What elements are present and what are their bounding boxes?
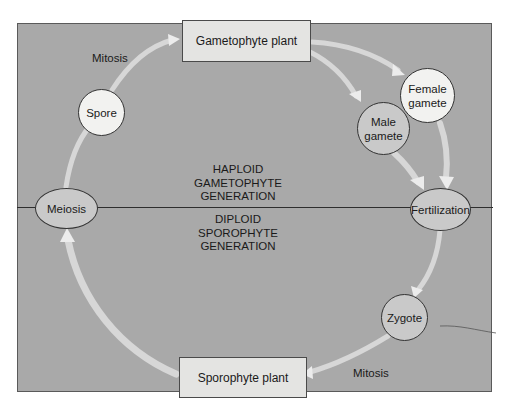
mitosis-top-label: Mitosis <box>92 52 128 64</box>
diploid-line1: DIPLOID <box>168 213 308 227</box>
diploid-line2: SPOROPHYTE <box>168 227 308 241</box>
sporophyte-plant-box: Sporophyte plant <box>179 357 307 398</box>
mitosis-bottom-label: Mitosis <box>353 367 389 379</box>
haploid-line3: GENERATION <box>168 190 308 204</box>
arrow-gametophyte-to-male <box>310 52 361 102</box>
zygote-leader-line <box>440 326 496 333</box>
gametophyte-plant-box: Gametophyte plant <box>182 20 311 62</box>
arrow-fertilization-to-zygote <box>411 230 440 298</box>
arrow-male-to-fertilization <box>394 153 424 190</box>
haploid-line2: GAMETOPHYTE <box>168 177 308 191</box>
diploid-generation-label: DIPLOID SPOROPHYTE GENERATION <box>168 213 308 254</box>
arrow-sporophyte-to-meiosis <box>60 228 176 374</box>
zygote-node: Zygote <box>381 294 428 341</box>
diploid-line3: GENERATION <box>168 240 308 254</box>
haploid-generation-label: HAPLOID GAMETOPHYTE GENERATION <box>168 163 308 204</box>
haploid-line1: HAPLOID <box>168 163 308 177</box>
male-gamete-label-line1: Male <box>371 115 396 129</box>
meiosis-label: Meiosis <box>47 202 86 216</box>
fertilization-label: Fertilization <box>411 203 470 217</box>
female-gamete-label-line2: gamete <box>408 96 446 110</box>
gametophyte-plant-label: Gametophyte plant <box>196 34 297 48</box>
spore-node: Spore <box>78 89 125 136</box>
arrow-female-to-fertilization <box>439 123 454 190</box>
life-cycle-diagram: Gametophyte plant Sporophyte plant Spore… <box>0 0 506 404</box>
zygote-label: Zygote <box>387 311 422 325</box>
fertilization-node: Fertilization <box>410 188 471 231</box>
male-gamete-node: Male gamete <box>357 102 410 155</box>
meiosis-node: Meiosis <box>35 188 98 229</box>
female-gamete-label-line1: Female <box>408 82 446 96</box>
female-gamete-node: Female gamete <box>400 68 455 123</box>
spore-label: Spore <box>86 106 117 120</box>
sporophyte-plant-label: Sporophyte plant <box>198 371 289 385</box>
male-gamete-label-line2: gamete <box>364 129 402 143</box>
